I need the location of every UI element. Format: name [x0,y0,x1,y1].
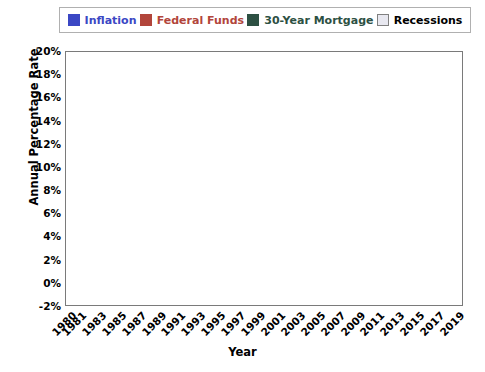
y-tick-label: 14% [36,115,61,127]
x-axis-label: Year [0,345,485,359]
legend-swatch-mortgage [247,14,259,26]
chart-legend: Inflation Federal Funds 30-Year Mortgage… [59,7,471,33]
legend-swatch-federal-funds [140,14,152,26]
plot-area: -2%0%2%4%6%8%10%12%14%16%18%20% 19801981… [65,51,463,306]
legend-label-inflation: Inflation [85,14,137,27]
legend-item-mortgage: 30-Year Mortgage [247,14,373,27]
y-axis-label: Annual Percentage Rate [27,37,41,217]
y-tick-label: 18% [36,68,61,80]
y-tick-label: 12% [36,138,61,150]
plot-frame [65,51,463,306]
legend-swatch-recessions [377,14,389,26]
legend-label-mortgage: 30-Year Mortgage [264,14,373,27]
y-tick-label: 6% [43,207,61,219]
legend-item-recessions: Recessions [377,14,463,27]
y-tick-label: 20% [36,45,61,57]
y-tick-label: 2% [43,254,61,266]
y-tick-label: 8% [43,184,61,196]
y-tick-label: 16% [36,91,61,103]
legend-item-federal-funds: Federal Funds [140,14,244,27]
legend-label-recessions: Recessions [394,14,463,27]
y-tick-label: 0% [43,277,61,289]
y-tick-label: 10% [36,161,61,173]
y-tick-label: 4% [43,230,61,242]
legend-item-inflation: Inflation [68,14,137,27]
legend-label-federal-funds: Federal Funds [157,14,244,27]
legend-swatch-inflation [68,14,80,26]
chart-figure: Inflation Federal Funds 30-Year Mortgage… [0,0,485,372]
y-tick-label: -2% [39,300,61,312]
